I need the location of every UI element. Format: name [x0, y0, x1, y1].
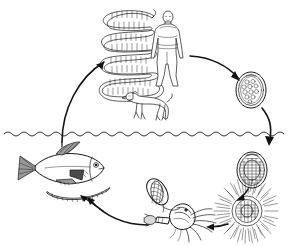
coracidium-icon [214, 179, 278, 243]
arrow-plerocercoid-pointer [80, 195, 103, 211]
arrow-copepod-to-fish [87, 197, 148, 225]
water-surface-line [4, 132, 284, 136]
lifecycle-diagram: Fish tapeworm (Diphyllobothrium latum) l… [0, 0, 294, 246]
plerocercoid-icon [47, 188, 110, 202]
arrow-human-to-egg [190, 56, 240, 81]
egg-icon [236, 72, 266, 108]
copepod-icon [144, 204, 216, 242]
lifecycle-illustration [0, 0, 294, 246]
fish-icon [18, 142, 104, 185]
arrow-coracidium-to-copepod [206, 224, 228, 231]
arrow-egg-to-water [262, 108, 274, 146]
